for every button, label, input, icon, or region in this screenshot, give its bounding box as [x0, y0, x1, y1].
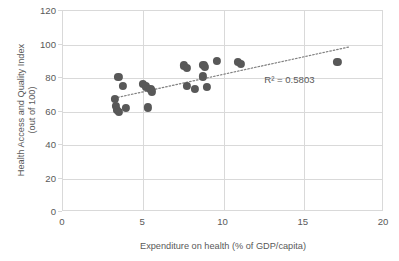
x-axis-tick-label: 10 — [206, 216, 240, 227]
trendline — [63, 11, 384, 212]
plot-area — [62, 10, 383, 211]
r-squared-annotation: R² = 0.5803 — [264, 74, 314, 85]
y-axis-tick-mark — [58, 211, 62, 212]
y-axis-tick-label: 100 — [22, 38, 56, 49]
y-axis-tick-label: 0 — [22, 206, 56, 217]
y-axis-tick-label: 120 — [22, 5, 56, 16]
y-axis-tick-label: 60 — [22, 105, 56, 116]
scatter-chart: Health Access and Quality Index (out of … — [0, 0, 399, 261]
y-axis-tick-label: 80 — [22, 72, 56, 83]
y-axis-tick-label: 40 — [22, 139, 56, 150]
x-axis-title: Expenditure on health (% of GDP/capita) — [62, 241, 384, 251]
x-axis-tick-label: 0 — [45, 216, 79, 227]
y-axis-tick-label: 20 — [22, 172, 56, 183]
x-axis-tick-label: 20 — [366, 216, 399, 227]
x-axis-tick-label: 15 — [286, 216, 320, 227]
x-axis-tick-label: 5 — [125, 216, 159, 227]
